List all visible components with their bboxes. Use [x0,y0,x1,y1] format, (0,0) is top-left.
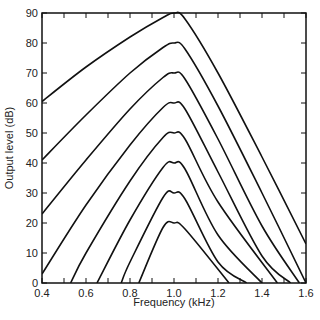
y-tick-label: 80 [26,37,38,49]
x-tick-label: 0.6 [78,287,93,299]
y-tick-label: 0 [32,277,38,289]
x-axis-ticks: 0.40.60.81.01.21.41.6 [34,13,313,299]
plot-frame [42,13,306,283]
y-tick-label: 20 [26,217,38,229]
y-axis-label: Output level (dB) [3,107,15,190]
y-tick-label: 70 [26,67,38,79]
y-tick-label: 30 [26,187,38,199]
y-tick-label: 10 [26,247,38,259]
response-curve [97,162,262,283]
x-tick-label: 1.6 [298,287,313,299]
response-curve [71,132,278,283]
chart: 0.40.60.81.01.21.41.6 010203040506070809… [0,0,320,320]
response-curve [42,12,306,244]
y-tick-label: 90 [26,7,38,19]
frequency-response-curves [42,12,306,283]
y-axis-ticks: 0102030405060708090 [26,7,306,289]
x-axis-label: Frequency (kHz) [133,296,214,308]
response-curve [42,72,299,283]
response-curve [121,191,246,283]
x-tick-label: 1.4 [254,287,269,299]
y-tick-label: 50 [26,127,38,139]
y-tick-label: 60 [26,97,38,109]
y-tick-label: 40 [26,157,38,169]
